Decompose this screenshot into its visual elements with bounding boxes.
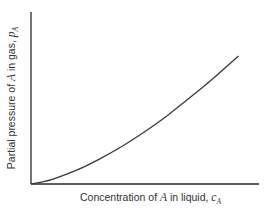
chart-canvas: [0, 0, 273, 213]
x-axis-label: Concentration of A in liquid, cA: [80, 191, 221, 206]
y-label-subscript: A: [11, 27, 20, 32]
y-axis-label: Partial pressure of A in gas, pA: [5, 27, 20, 169]
y-label-prefix: Partial pressure of: [5, 81, 17, 169]
x-label-var: A: [160, 191, 167, 203]
x-label-middle: in liquid,: [167, 191, 211, 203]
y-label-middle: in gas,: [5, 37, 17, 74]
y-label-var: A: [5, 74, 17, 81]
x-label-subscript: A: [216, 197, 221, 206]
equilibrium-curve: [31, 56, 239, 184]
x-label-prefix: Concentration of: [80, 191, 160, 203]
y-label-symbol: p: [5, 31, 17, 37]
